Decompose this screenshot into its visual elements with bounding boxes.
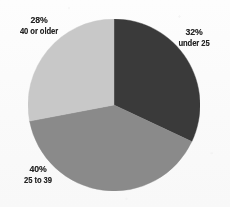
pie-chart-figure: 28% 40 or older 32% under 25 40% 25 to 3… [0, 0, 230, 207]
slice-category-25-to-39: 25 to 39 [6, 175, 71, 185]
slice-label-under-25: 32% under 25 [160, 26, 228, 48]
slice-value-under-25: 32% [163, 26, 226, 37]
slice-value-40-or-older: 28% [5, 14, 73, 25]
slice-category-40-or-older: 40 or older [6, 26, 73, 36]
slice-label-25-to-39: 40% 25 to 39 [2, 163, 74, 185]
slice-label-40-or-older: 28% 40 or older [2, 14, 76, 36]
slice-category-under-25: under 25 [163, 38, 224, 48]
slice-value-25-to-39: 40% [5, 163, 71, 174]
